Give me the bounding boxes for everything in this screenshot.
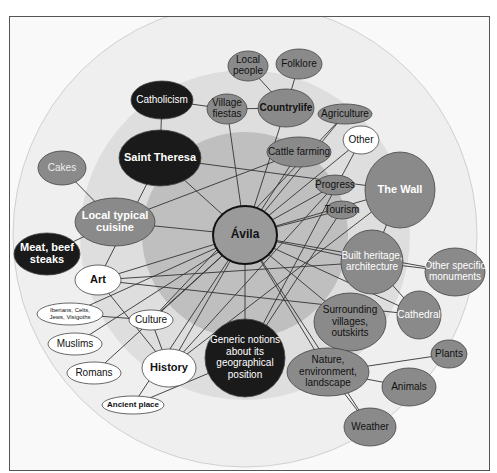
node-label: Weather <box>351 421 389 432</box>
node-label: environment, <box>299 366 357 377</box>
node-label: Saint Theresa <box>124 151 197 163</box>
node-label: Countrylife <box>260 102 313 113</box>
node-agriculture: Agriculture <box>318 104 372 124</box>
node-label: Progress <box>315 179 355 190</box>
node-other-monuments: Other specificmonuments <box>424 248 485 296</box>
node-countrylife: Countrylife <box>258 89 314 127</box>
node-label: Other <box>348 134 374 145</box>
node-culture: Culture <box>129 310 173 330</box>
node-label: Ancient place <box>107 400 160 409</box>
concept-map: LocalpeopleFolkloreCatholicismVillagefie… <box>0 0 497 473</box>
node-label: fiestas <box>213 108 242 119</box>
node-nature: Nature,environment,landscape <box>287 348 369 396</box>
node-label: Culture <box>135 314 168 325</box>
node-other: Other <box>343 126 379 154</box>
node-ancient-place: Ancient place <box>102 396 164 414</box>
node-label: Iberians, Celts, <box>50 307 90 313</box>
node-label: geographical <box>216 357 273 368</box>
node-progress: Progress <box>315 175 355 195</box>
node-generic-notions: Generic notionsabout itsgeographicalposi… <box>205 319 285 397</box>
node-built-heritage: Built heritage,architecture <box>341 230 403 294</box>
node-label: position <box>228 369 262 380</box>
node-label: Plants <box>435 348 463 359</box>
node-label: cuisine <box>96 221 134 233</box>
node-weather: Weather <box>344 408 396 446</box>
node-iberians: Iberians, Celts,Jews, Visigoths <box>37 303 103 325</box>
node-cattle-farming: Cattle farming <box>267 137 331 167</box>
node-label: steaks <box>30 253 64 265</box>
node-label: Catholicism <box>136 94 188 105</box>
node-label: villages, <box>332 316 368 327</box>
node-avila: Ávila <box>213 206 277 264</box>
node-label: Village <box>212 97 242 108</box>
node-label: Tourism <box>324 204 359 215</box>
node-label: Art <box>90 273 106 285</box>
node-saint-theresa: Saint Theresa <box>119 130 201 186</box>
node-label: Romans <box>75 367 112 378</box>
node-label: Meat, beef <box>20 241 74 253</box>
node-label: Generic notions <box>210 334 280 345</box>
node-surrounding-villages: Surroundingvillages,outskirts <box>314 293 386 351</box>
node-label: Other specific <box>424 260 485 271</box>
node-catholicism: Catholicism <box>131 81 193 119</box>
node-folklore: Folklore <box>276 49 322 79</box>
node-label: The Wall <box>378 183 423 195</box>
node-label: Muslims <box>57 338 94 349</box>
node-plants: Plants <box>431 340 467 368</box>
node-art: Art <box>75 265 121 295</box>
node-label: Cathedral <box>397 309 440 320</box>
node-label: people <box>233 65 263 76</box>
node-label: Local <box>236 54 260 65</box>
node-label: Folklore <box>281 58 317 69</box>
node-label: monuments <box>429 271 481 282</box>
node-label: Built heritage, <box>341 250 402 261</box>
node-cathedral: Cathedral <box>397 291 441 339</box>
node-label: Surrounding <box>323 304 377 315</box>
node-romans: Romans <box>67 362 121 384</box>
node-label: architecture <box>346 261 399 272</box>
node-cakes: Cakes <box>38 151 86 185</box>
node-muslims: Muslims <box>48 333 102 355</box>
node-history: History <box>142 349 196 387</box>
node-local-people: Localpeople <box>228 51 268 81</box>
node-label: Cattle farming <box>268 146 330 157</box>
node-label: landscape <box>305 377 351 388</box>
node-label: Nature, <box>312 354 345 365</box>
node-meat-beef-steaks: Meat, beefsteaks <box>14 233 80 275</box>
node-label: Jews, Visigoths <box>49 314 90 320</box>
node-label: Ávila <box>231 226 260 241</box>
node-label: Animals <box>391 381 427 392</box>
node-label: outskirts <box>331 327 368 338</box>
node-label: about its <box>226 346 264 357</box>
node-label: Local typical <box>82 209 149 221</box>
node-animals: Animals <box>382 368 436 406</box>
node-village-fiestas: Villagefiestas <box>207 94 247 124</box>
node-local-cuisine: Local typicalcuisine <box>75 198 155 246</box>
node-the-wall: The Wall <box>365 152 435 228</box>
node-label: Agriculture <box>321 108 369 119</box>
node-label: History <box>150 361 189 373</box>
node-label: Cakes <box>48 162 76 173</box>
